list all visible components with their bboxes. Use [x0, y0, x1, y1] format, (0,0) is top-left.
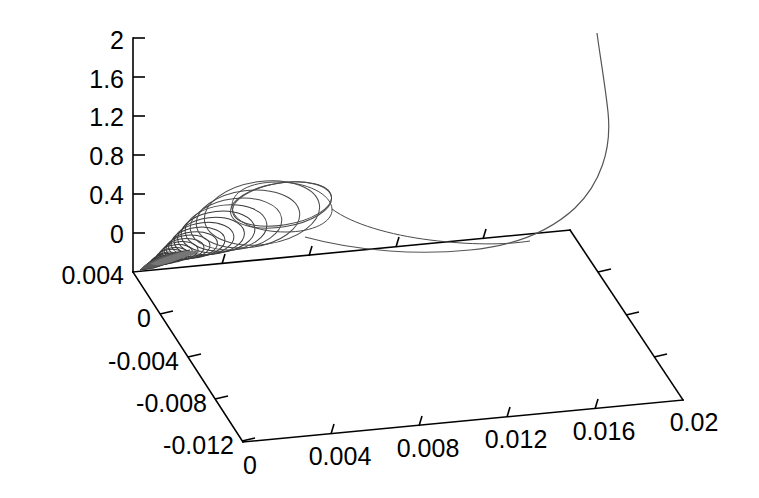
y-right-tick-m0p004	[626, 312, 639, 315]
z-axis-tick-labels: 2 1.6 1.2 0.8 0.4 0	[89, 26, 124, 248]
y-axis-ticks	[160, 311, 255, 441]
y-tick-m0p004	[188, 354, 201, 357]
z-tick-label-0: 0	[110, 220, 124, 248]
y-tick-0	[160, 311, 173, 314]
z-tick-label-1p6: 1.6	[89, 65, 124, 93]
floor-right-edge-ticks	[598, 269, 667, 357]
x-tick-label-0p004: 0.004	[309, 442, 372, 470]
y-tick-label-0: 0	[137, 304, 151, 332]
floor-back-edge-ticks	[222, 229, 486, 264]
plot-canvas: 2 1.6 1.2 0.8 0.4 0 0.004 0 -0.004 -0.00…	[0, 0, 759, 498]
y-tick-label-m0p004: -0.004	[108, 347, 179, 375]
x-tick-label-0p008: 0.008	[397, 434, 460, 462]
trajectory-unwind-sweep	[332, 209, 530, 244]
trajectory-mid-loops	[187, 174, 324, 255]
trajectory-curve	[140, 33, 609, 270]
z-tick-label-2: 2	[110, 26, 124, 54]
y-axis-tick-labels: 0.004 0 -0.004 -0.008 -0.012	[61, 261, 234, 459]
y-tick-label-0p004: 0.004	[61, 261, 124, 289]
z-tick-label-1p2: 1.2	[89, 103, 124, 131]
y-tick-m0p008	[215, 396, 228, 399]
x-tick-label-0p012: 0.012	[485, 425, 548, 453]
x-tick-0p004	[331, 424, 334, 434]
x-tick-label-0: 0	[243, 451, 257, 479]
x-tick-0p012	[507, 407, 510, 417]
x-back-tick-0p012	[396, 237, 399, 247]
axis-frame	[133, 38, 683, 442]
y-tick-label-m0p008: -0.008	[136, 389, 207, 417]
y-tick-label-m0p012: -0.012	[163, 431, 234, 459]
x-tick-label-0p016: 0.016	[573, 417, 636, 445]
x-tick-label-0p02: 0.02	[670, 408, 719, 436]
y-right-tick-0	[598, 269, 611, 272]
x-axis-ticks	[331, 399, 598, 434]
z-tick-label-0p8: 0.8	[89, 142, 124, 170]
z-axis-ticks	[133, 38, 145, 233]
y-right-tick-m0p008	[654, 354, 667, 357]
z-tick-label-0p4: 0.4	[89, 181, 124, 209]
plot-figure: 2 1.6 1.2 0.8 0.4 0 0.004 0 -0.004 -0.00…	[0, 0, 759, 498]
